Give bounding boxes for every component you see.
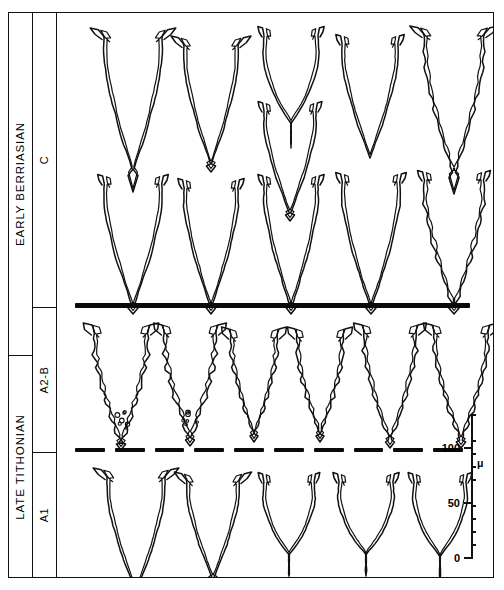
- specimen-a2b-4: [288, 327, 353, 442]
- dash-segment: [194, 448, 224, 452]
- dash-segment: [354, 448, 384, 452]
- stage-cell-late-tithonian: LATE TITHONIAN: [8, 355, 32, 578]
- specimen-inner-wall: [186, 181, 235, 311]
- specimen-outer-wall: [154, 323, 227, 446]
- scale-minor-tick: [471, 544, 476, 546]
- specimen-granule: [115, 413, 120, 418]
- dash-segment: [314, 448, 344, 452]
- specimen-outer-wall: [336, 173, 407, 315]
- specimen-inner-wall: [101, 30, 165, 188]
- specimen-c-u-4: [336, 35, 404, 159]
- scale-axis-line: [471, 415, 473, 558]
- zone-divider: [33, 307, 56, 308]
- dash-segment: [155, 448, 185, 452]
- biostratigraphic-plate: EARLY BERRIASIAN LATE TITHONIAN C A2-B A…: [0, 0, 504, 590]
- specimen-a1-4: [333, 473, 399, 577]
- stage-label-early-berriasian: EARLY BERRIASIAN: [14, 122, 26, 246]
- specimen-outer-wall: [336, 35, 404, 159]
- scale-minor-tick: [471, 518, 476, 520]
- specimen-outer-wall: [98, 175, 169, 315]
- scale-minor-tick: [471, 414, 476, 416]
- dash-segment: [75, 448, 105, 452]
- specimen-granule: [125, 427, 127, 429]
- micron-scale-bar: μ 100500: [431, 409, 491, 566]
- specimen-inner-wall: [421, 28, 488, 190]
- specimen-inner-wall: [266, 29, 316, 145]
- specimen-inner-wall: [266, 177, 315, 311]
- specimen-inner-wall: [104, 470, 168, 578]
- specimen-c-l-3: [258, 175, 324, 315]
- specimen-row-row-c-lower: [98, 171, 491, 315]
- specimen-granule: [120, 418, 125, 423]
- dashed-boundary-line: [75, 448, 463, 452]
- specimen-inner-wall: [344, 37, 395, 155]
- zone-column: C A2-B A1: [33, 12, 57, 578]
- zone-cell-a1: A1: [33, 452, 56, 578]
- stage-divider: [8, 355, 32, 356]
- dash-segment: [393, 448, 423, 452]
- specimen-outer-wall: [258, 175, 324, 315]
- zone-label-a2-b: A2-B: [39, 366, 51, 393]
- specimen-outer-wall: [354, 323, 427, 448]
- scale-minor-tick: [471, 440, 476, 442]
- scale-tick-label: 0: [431, 552, 460, 564]
- zone-label-c: C: [38, 155, 50, 164]
- specimen-a1-2: [174, 472, 251, 578]
- zone-divider: [33, 452, 56, 453]
- scale-major-tick: [464, 557, 473, 559]
- specimen-granule: [186, 420, 189, 423]
- specimen-c-u-2: [171, 36, 251, 172]
- scale-unit-label: μ: [477, 457, 483, 469]
- zone-label-a1: A1: [39, 508, 51, 523]
- specimen-a2b-3: [222, 327, 287, 442]
- scale-minor-tick: [471, 466, 476, 468]
- specimen-inner-wall: [266, 475, 313, 573]
- scale-minor-tick: [471, 479, 476, 481]
- dash-segment: [115, 448, 145, 452]
- specimen-a2b-1: [83, 323, 158, 450]
- scale-tick-label: 50: [431, 497, 460, 509]
- zone-cell-c: C: [33, 12, 56, 307]
- specimen-inner-wall: [266, 104, 313, 218]
- specimen-drawing-area: [57, 12, 494, 578]
- solid-boundary-line: [75, 303, 470, 308]
- specimen-inner-wall: [93, 325, 149, 446]
- scale-tick-label: 100: [431, 442, 460, 454]
- specimen-outer-wall: [178, 179, 244, 315]
- specimen-c-u-3: [258, 27, 324, 149]
- specimen-c-l-1: [98, 175, 169, 315]
- zone-cell-a2-b: A2-B: [33, 307, 56, 452]
- specimen-inner-wall: [341, 475, 392, 573]
- scale-minor-tick: [471, 531, 476, 533]
- scale-minor-tick: [471, 453, 476, 455]
- scale-major-tick: [464, 502, 473, 504]
- specimen-a2b-2: [154, 323, 227, 446]
- specimen-row-row-c-upper: [90, 26, 494, 194]
- scale-major-tick: [464, 447, 473, 449]
- specimen-a2b-5: [354, 323, 427, 448]
- specimen-c-u-1: [90, 28, 176, 192]
- specimen-a1-3: [258, 473, 320, 577]
- specimen-inner-wall: [344, 175, 397, 311]
- stage-column: EARLY BERRIASIAN LATE TITHONIAN: [8, 12, 33, 578]
- stage-label-late-tithonian: LATE TITHONIAN: [14, 414, 26, 519]
- specimen-inner-wall: [181, 38, 241, 168]
- specimen-granule: [196, 421, 198, 423]
- stage-cell-early-berriasian: EARLY BERRIASIAN: [8, 12, 32, 355]
- specimen-outer-wall: [174, 472, 251, 578]
- specimen-c-l-2: [178, 179, 244, 315]
- specimen-c-l-4: [336, 173, 407, 315]
- specimen-a1-1: [93, 468, 179, 578]
- specimen-c-u-5: [410, 26, 494, 194]
- scale-minor-tick: [471, 505, 476, 507]
- dash-segment: [234, 448, 264, 452]
- specimen-inner-wall: [163, 325, 217, 442]
- specimen-outer-wall: [171, 36, 251, 172]
- specimen-outer-wall: [222, 327, 287, 442]
- dash-segment: [274, 448, 304, 452]
- specimen-outer-wall: [90, 28, 176, 192]
- specimen-outer-wall: [83, 323, 158, 450]
- specimen-outline-svg: [57, 12, 494, 578]
- specimen-outer-wall: [288, 327, 353, 442]
- specimen-inner-wall: [106, 177, 159, 311]
